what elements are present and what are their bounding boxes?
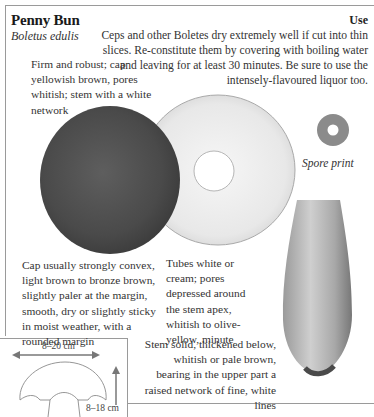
mushroom-outline (20, 362, 106, 400)
spore-print-illustration (317, 114, 349, 146)
width-dimension-label: 8–20 cm (42, 341, 75, 351)
arrow-left-icon (12, 351, 20, 359)
spore-print-label: Spore print (302, 157, 354, 169)
arrow-right-icon (92, 351, 100, 359)
cap-top-illustration (40, 106, 180, 254)
illustrations (0, 0, 374, 417)
stem-illustration (283, 200, 352, 374)
arrow-up-icon (112, 366, 120, 374)
height-dimension-label: 8–18 cm (86, 403, 119, 413)
